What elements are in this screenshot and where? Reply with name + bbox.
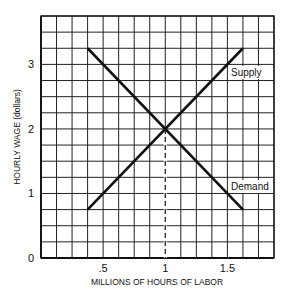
- x-axis-ticks: .511.5: [99, 262, 236, 274]
- y-tick-label: 0: [28, 252, 34, 264]
- demand-label: Demand: [231, 181, 269, 192]
- x-tick-label: .5: [99, 262, 108, 274]
- y-axis-ticks: 0123: [28, 58, 34, 264]
- y-tick-label: 2: [28, 123, 34, 135]
- x-tick-label: 1.5: [220, 262, 235, 274]
- y-tick-label: 3: [28, 58, 34, 70]
- supply-label: Supply: [231, 67, 262, 78]
- x-axis-title: MILLIONS OF HOURS OF LABOR: [91, 277, 223, 287]
- y-axis-title: HOURLY WAGE (dollars): [12, 89, 22, 185]
- x-tick-label: 1: [162, 262, 168, 274]
- y-tick-label: 1: [28, 187, 34, 199]
- supply-demand-chart: SupplyDemand .511.5 0123 MILLIONS OF HOU…: [0, 0, 289, 296]
